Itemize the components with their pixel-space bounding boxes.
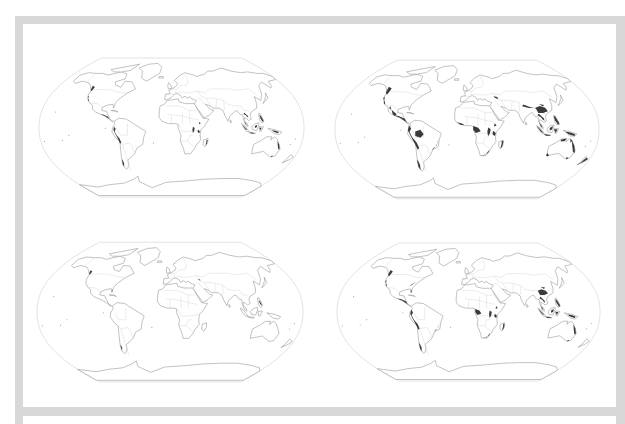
- island-dot: [105, 128, 106, 129]
- island-dot: [289, 328, 290, 329]
- world-map-top-left: [39, 58, 304, 197]
- map-svg: [337, 243, 600, 381]
- island-dot: [62, 140, 63, 141]
- island-dot: [366, 319, 367, 320]
- island-dot: [590, 140, 591, 141]
- island-dot: [400, 130, 401, 131]
- map-svg: [37, 242, 303, 382]
- landmass-iceland: [454, 79, 459, 81]
- island-dot: [364, 137, 365, 138]
- landmass-iceland: [456, 261, 461, 263]
- island-dot: [351, 114, 352, 115]
- island-dot: [586, 328, 587, 329]
- island-dot: [44, 141, 45, 142]
- world-map-bottom-right: [337, 243, 600, 381]
- island-dot: [360, 324, 361, 325]
- island-dot: [103, 312, 104, 313]
- island-dot: [66, 319, 67, 320]
- island-dot: [153, 142, 154, 143]
- island-dot: [402, 312, 403, 313]
- island-dot: [60, 325, 61, 326]
- island-dot: [42, 325, 43, 326]
- island-dot: [342, 325, 343, 326]
- island-dot: [448, 144, 449, 145]
- figure-frame-bottom: [15, 407, 625, 416]
- island-dot: [53, 296, 54, 297]
- island-dot: [294, 323, 295, 324]
- landmass-iceland: [159, 77, 164, 79]
- island-dot: [450, 327, 451, 328]
- landmass-iceland: [157, 261, 162, 263]
- world-map-top-right: [335, 60, 599, 199]
- island-dot: [290, 144, 291, 145]
- map-svg: [335, 60, 599, 199]
- island-dot: [68, 135, 69, 136]
- island-dot: [591, 323, 592, 324]
- map-svg: [39, 58, 304, 197]
- island-dot: [55, 112, 56, 113]
- island-dot: [340, 143, 341, 144]
- island-dot: [585, 146, 586, 147]
- world-map-bottom-left: [37, 242, 303, 382]
- island-dot: [358, 142, 359, 143]
- island-dot: [151, 327, 152, 328]
- island-dot: [353, 296, 354, 297]
- island-dot: [295, 139, 296, 140]
